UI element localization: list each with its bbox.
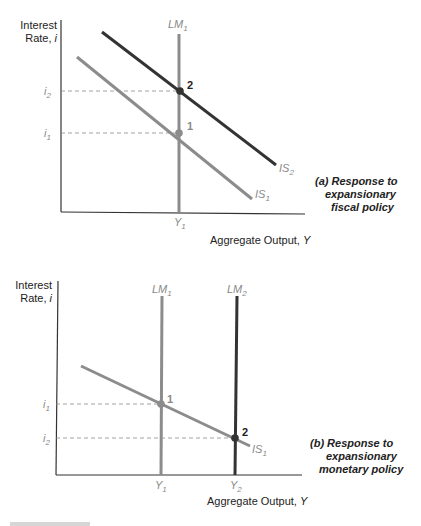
panel-a-y-axis-label-2: Rate, i xyxy=(25,32,57,44)
panel-a-i1-label: i1 xyxy=(44,127,51,142)
panel-b-y-axis-label: Interest xyxy=(15,279,52,291)
panel-b-lm1-label: LM1 xyxy=(152,283,172,298)
panel-a-y-axis-label: Interest xyxy=(20,19,57,31)
panel-a-fiscal-policy: Interest Rate, i i2 i1 LM1 IS1 IS2 1 2 Y… xyxy=(20,18,397,246)
panel-b-is1-label: IS1 xyxy=(252,443,267,458)
panel-b-i2-label: i2 xyxy=(43,432,50,447)
panel-b-caption-2: expansionary xyxy=(326,450,398,462)
panel-b-lm1-curve xyxy=(161,296,162,475)
panel-a-x-axis xyxy=(61,212,305,214)
panel-a-y1-label: Y1 xyxy=(174,216,186,231)
cropped-figure-label xyxy=(10,522,90,526)
panel-a-caption-2: expansionary xyxy=(325,188,397,200)
panel-b-caption-1: (b) Response to xyxy=(310,437,393,449)
panel-b-y-axis-label-2: Rate, i xyxy=(20,292,52,304)
panel-b-caption-3: monetary policy xyxy=(319,463,404,475)
panel-a-caption-3: fiscal policy xyxy=(331,201,395,213)
panel-b-monetary-policy: Interest Rate, i i1 i2 LM1 LM2 IS1 1 2 Y… xyxy=(15,279,404,507)
islm-diagram: Interest Rate, i i2 i1 LM1 IS1 IS2 1 2 Y… xyxy=(0,0,421,526)
panel-b-i1-label: i1 xyxy=(43,398,50,413)
panel-b-point-1-label: 1 xyxy=(167,393,173,405)
panel-b-is1-curve xyxy=(81,366,250,446)
panel-a-i2-label: i2 xyxy=(44,85,51,100)
panel-a-is1-label: IS1 xyxy=(255,188,270,203)
panel-a-lm1-label: LM1 xyxy=(168,18,188,33)
panel-b-x-axis-label: Aggregate Output, Y xyxy=(207,495,308,507)
panel-a-point-1-label: 1 xyxy=(187,120,193,132)
panel-a-caption-1: (a) Response to xyxy=(315,175,398,187)
panel-a-is2-label: IS2 xyxy=(279,162,294,177)
panel-a-x-axis-label: Aggregate Output, Y xyxy=(210,234,311,246)
panel-b-y-axis xyxy=(56,281,58,475)
panel-b-y2-label: Y2 xyxy=(230,479,242,494)
panel-a-point-1 xyxy=(175,129,183,137)
panel-b-point-1 xyxy=(157,400,165,408)
panel-b-point-2 xyxy=(231,434,239,442)
panel-b-lm2-label: LM2 xyxy=(227,283,247,298)
panel-a-point-2 xyxy=(176,87,184,95)
panel-b-y1-label: Y1 xyxy=(155,479,167,494)
panel-b-point-2-label: 2 xyxy=(242,426,248,438)
panel-a-point-2-label: 2 xyxy=(187,79,193,91)
panel-b-lm2-curve xyxy=(235,296,237,475)
